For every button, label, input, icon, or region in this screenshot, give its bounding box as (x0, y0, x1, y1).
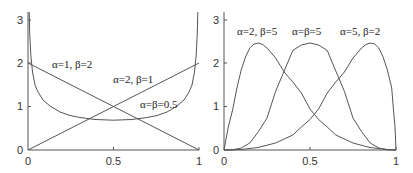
left-y-tick-1: 1 (17, 100, 23, 112)
left-x-tick-05: 0.5 (106, 155, 121, 167)
right-x-tick-0: 0 (221, 155, 227, 167)
label-a2-b5: α=2, β=5 (237, 25, 278, 37)
curve-a5-b2 (224, 43, 396, 150)
left-x-tick-1: 1 (196, 155, 202, 167)
label-a5-b5: α=β=5 (292, 25, 322, 37)
right-y-tick-0: 0 (213, 144, 219, 156)
curve-a5-b5 (224, 43, 396, 150)
left-y-tick-2: 2 (17, 57, 23, 69)
right-y-tick-2: 2 (213, 57, 219, 69)
left-y-tick-3: 3 (17, 14, 23, 26)
left-plot: 3 2 1 0 0 0.5 1 α=1, β=2 α=2, β=1 α=β=0.… (17, 12, 202, 167)
label-a2-b1: α=2, β=1 (113, 73, 153, 85)
label-a5-b2: α=5, β=2 (340, 25, 380, 37)
right-y-tick-3: 3 (213, 14, 219, 26)
right-x-tick-1: 1 (393, 155, 399, 167)
right-plot: 3 2 1 0 0 0.5 1 α=2, β=5 α=β=5 α=5, β=2 (213, 12, 399, 167)
curve-a2-b5 (224, 43, 396, 150)
left-x-tick-0: 0 (25, 155, 31, 167)
right-y-tick-1: 1 (213, 100, 219, 112)
label-a05-b05: α=β=0.5 (140, 98, 178, 110)
label-a1-b2: α=1, β=2 (52, 58, 92, 70)
right-x-tick-05: 0.5 (302, 155, 317, 167)
left-y-tick-0: 0 (17, 144, 23, 156)
beta-distribution-figure: 3 2 1 0 0 0.5 1 α=1, β=2 α=2, β=1 α=β=0.… (0, 0, 413, 173)
